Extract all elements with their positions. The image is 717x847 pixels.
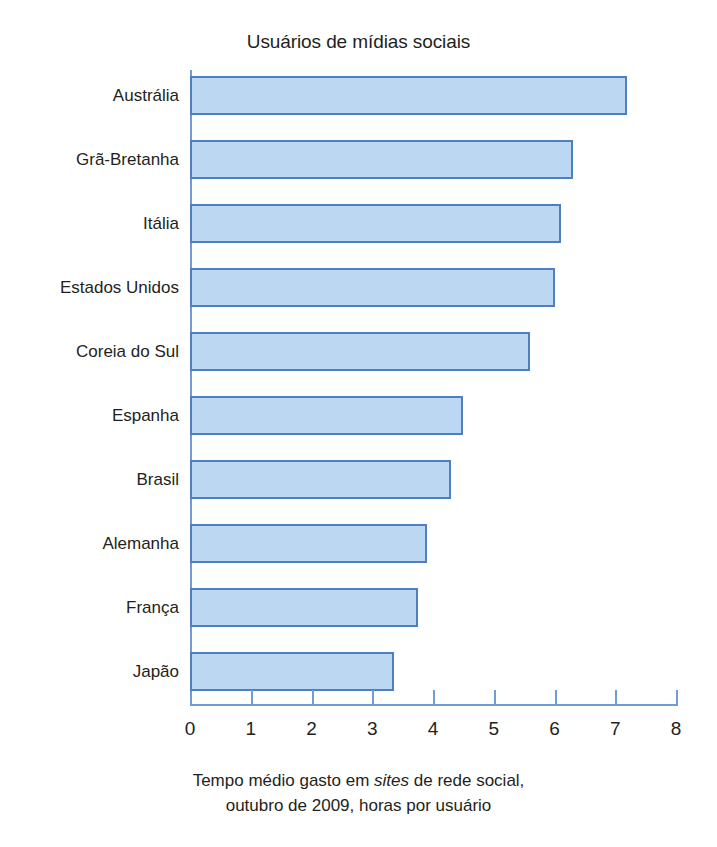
x-tick-label: 7	[595, 718, 635, 740]
x-axis-title-italic: sites	[374, 771, 409, 790]
bar	[190, 140, 573, 179]
x-tick-mark	[555, 690, 557, 706]
bar-row: Estados Unidos	[190, 268, 676, 307]
category-label: Brasil	[4, 460, 179, 499]
x-tick-label: 4	[413, 718, 453, 740]
category-label: Alemanha	[4, 524, 179, 563]
x-tick-mark	[676, 690, 678, 706]
category-label: França	[4, 588, 179, 627]
x-axis-title-part-1: Tempo médio gasto em	[193, 771, 374, 790]
x-tick-mark	[372, 690, 374, 706]
category-label: Espanha	[4, 396, 179, 435]
x-tick-mark	[433, 690, 435, 706]
bar-row: Itália	[190, 204, 676, 243]
x-axis-title-line-2: outubro de 2009, horas por usuário	[0, 793, 717, 818]
bar	[190, 268, 555, 307]
chart-title: Usuários de mídias sociais	[0, 30, 717, 54]
x-tick-mark	[251, 690, 253, 706]
category-label: Estados Unidos	[4, 268, 179, 307]
bar	[190, 588, 418, 627]
bar	[190, 76, 627, 115]
bar	[190, 460, 451, 499]
x-tick-label: 1	[231, 718, 271, 740]
x-tick-mark	[312, 690, 314, 706]
bar	[190, 652, 394, 691]
x-axis-title-line-1: Tempo médio gasto em sites de rede socia…	[0, 768, 717, 793]
x-tick-label: 3	[352, 718, 392, 740]
x-tick-label: 2	[292, 718, 332, 740]
bar	[190, 524, 427, 563]
plot-area: AustráliaGrã-BretanhaItáliaEstados Unido…	[190, 70, 676, 706]
bar-row: França	[190, 588, 676, 627]
bar-chart: Usuários de mídias sociais AustráliaGrã-…	[0, 0, 717, 847]
bar-row: Coreia do Sul	[190, 332, 676, 371]
x-tick-mark	[615, 690, 617, 706]
x-tick-label: 8	[656, 718, 696, 740]
category-label: Grã-Bretanha	[4, 140, 179, 179]
bar	[190, 332, 530, 371]
bar-row: Grã-Bretanha	[190, 140, 676, 179]
bar-row: Japão	[190, 652, 676, 691]
bar-row: Austrália	[190, 76, 676, 115]
category-label: Coreia do Sul	[4, 332, 179, 371]
bar-row: Espanha	[190, 396, 676, 435]
bar	[190, 396, 463, 435]
bar	[190, 204, 561, 243]
x-axis-title-part-2: de rede social,	[409, 771, 524, 790]
category-label: Itália	[4, 204, 179, 243]
x-tick-label: 6	[535, 718, 575, 740]
x-tick-label: 5	[474, 718, 514, 740]
x-tick-label: 0	[170, 718, 210, 740]
category-label: Austrália	[4, 76, 179, 115]
bar-row: Alemanha	[190, 524, 676, 563]
bar-row: Brasil	[190, 460, 676, 499]
x-tick-mark	[494, 690, 496, 706]
category-label: Japão	[4, 652, 179, 691]
x-axis-title: Tempo médio gasto em sites de rede socia…	[0, 768, 717, 818]
